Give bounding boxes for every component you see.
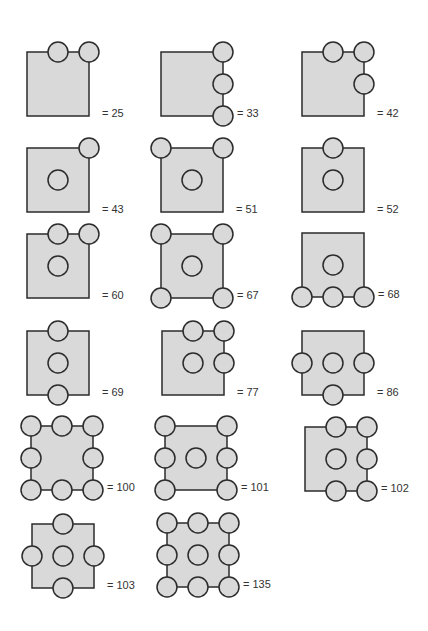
value-label: = 60 xyxy=(102,289,124,301)
square-figure: = 135 xyxy=(157,513,271,597)
square-figure: = 77 xyxy=(162,321,259,398)
value-label: = 103 xyxy=(107,579,135,591)
circle-marker xyxy=(292,287,312,307)
circle-marker xyxy=(354,42,374,62)
circle-marker xyxy=(53,546,73,566)
circle-marker xyxy=(357,417,377,437)
square-figure: = 25 xyxy=(27,42,124,119)
circle-marker xyxy=(214,321,234,341)
value-label: = 42 xyxy=(377,107,399,119)
circle-marker xyxy=(182,256,202,276)
circle-marker xyxy=(48,42,68,62)
circle-marker xyxy=(219,577,239,597)
circle-marker xyxy=(53,578,73,598)
circle-marker xyxy=(213,224,233,244)
circle-marker xyxy=(219,513,239,533)
circle-marker xyxy=(155,480,175,500)
circle-marker xyxy=(83,448,103,468)
circle-marker xyxy=(188,545,208,565)
value-label: = 135 xyxy=(243,578,271,590)
circle-marker xyxy=(79,42,99,62)
value-label: = 25 xyxy=(102,107,124,119)
circle-marker xyxy=(213,106,233,126)
circle-marker xyxy=(323,170,343,190)
circle-marker xyxy=(79,224,99,244)
circle-marker xyxy=(292,353,312,373)
value-label: = 86 xyxy=(377,386,399,398)
value-label: = 69 xyxy=(102,386,124,398)
value-label: = 77 xyxy=(237,386,259,398)
circle-marker xyxy=(326,449,346,469)
circle-marker xyxy=(354,353,374,373)
circle-marker xyxy=(21,480,41,500)
circle-marker xyxy=(188,577,208,597)
circle-marker xyxy=(213,42,233,62)
square-figure: = 52 xyxy=(302,138,399,215)
circle-marker xyxy=(326,481,346,501)
circle-marker xyxy=(182,170,202,190)
circle-marker xyxy=(188,513,208,533)
circle-marker xyxy=(21,448,41,468)
circle-marker xyxy=(22,546,42,566)
circle-marker xyxy=(326,417,346,437)
circle-marker xyxy=(83,416,103,436)
circle-marker xyxy=(213,138,233,158)
value-label: = 33 xyxy=(237,107,259,119)
circle-marker xyxy=(151,288,171,308)
square-figure: = 86 xyxy=(292,331,399,405)
circle-marker xyxy=(214,353,234,373)
value-label: = 52 xyxy=(377,203,399,215)
square-figure: = 67 xyxy=(151,224,259,308)
value-label: = 51 xyxy=(236,203,258,215)
circle-marker xyxy=(21,416,41,436)
circle-marker xyxy=(48,256,68,276)
circle-marker xyxy=(52,480,72,500)
circle-marker xyxy=(157,513,177,533)
circle-marker xyxy=(48,170,68,190)
circle-marker xyxy=(48,321,68,341)
figure-canvas: = 25= 33= 42= 43= 51= 52= 60= 67= 68= 69… xyxy=(0,0,428,631)
circle-marker xyxy=(79,138,99,158)
circle-marker xyxy=(217,448,237,468)
circle-marker xyxy=(323,287,343,307)
square-figure: = 60 xyxy=(27,224,124,301)
square-figure: = 101 xyxy=(155,416,269,500)
circle-marker xyxy=(323,255,343,275)
square-figure: = 100 xyxy=(21,416,135,500)
square-figure: = 69 xyxy=(27,321,124,405)
circle-marker xyxy=(217,416,237,436)
circle-marker xyxy=(183,321,203,341)
square-figure: = 42 xyxy=(302,42,399,119)
value-label: = 67 xyxy=(237,289,259,301)
value-label: = 101 xyxy=(241,481,269,493)
circle-marker xyxy=(323,42,343,62)
square-figure: = 43 xyxy=(27,138,124,215)
circle-marker xyxy=(323,353,343,373)
circle-marker xyxy=(157,577,177,597)
circle-marker xyxy=(323,138,343,158)
circle-marker xyxy=(354,74,374,94)
circle-marker xyxy=(48,224,68,244)
square-figure: = 51 xyxy=(151,138,258,215)
circle-marker xyxy=(186,448,206,468)
circle-marker xyxy=(151,138,171,158)
circle-marker xyxy=(357,481,377,501)
circle-marker xyxy=(84,546,104,566)
square-figure: = 102 xyxy=(305,417,409,501)
square-figure: = 103 xyxy=(22,514,135,598)
square-figure: = 68 xyxy=(292,233,400,307)
value-label: = 43 xyxy=(102,203,124,215)
circle-marker xyxy=(48,353,68,373)
circle-marker xyxy=(183,353,203,373)
circle-marker xyxy=(357,449,377,469)
circle-marker xyxy=(157,545,177,565)
circle-marker xyxy=(48,385,68,405)
circle-marker xyxy=(155,448,175,468)
circle-marker xyxy=(213,288,233,308)
circle-marker xyxy=(217,480,237,500)
square-figure: = 33 xyxy=(161,42,259,126)
circle-marker xyxy=(52,416,72,436)
circle-marker xyxy=(151,224,171,244)
value-label: = 100 xyxy=(107,481,135,493)
circle-marker xyxy=(354,287,374,307)
